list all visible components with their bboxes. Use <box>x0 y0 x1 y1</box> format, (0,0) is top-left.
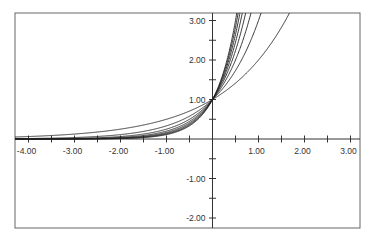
x-tick-label: -1.00 <box>155 146 175 156</box>
exponential-curves-chart: -4.00-3.00-2.00-1.001.002.003.00-2.00-1.… <box>0 0 377 241</box>
x-tick-label: 1.00 <box>248 146 265 156</box>
x-tick-label: 3.00 <box>340 146 357 156</box>
x-tick-label: -4.00 <box>17 146 37 156</box>
y-tick-label: 3.00 <box>189 16 206 26</box>
x-tick-label: -2.00 <box>109 146 129 156</box>
y-tick-label: 2.00 <box>189 55 206 65</box>
y-tick-label: 1.00 <box>189 95 206 105</box>
y-tick-label: -1.00 <box>186 174 206 184</box>
y-tick-label: -2.00 <box>186 213 206 223</box>
x-tick-label: 2.00 <box>294 146 311 156</box>
x-tick-label: -3.00 <box>63 146 83 156</box>
